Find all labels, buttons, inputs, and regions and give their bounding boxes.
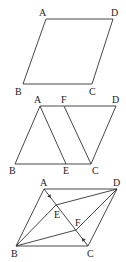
segment-BA	[16, 189, 44, 246]
point-label-c: C	[89, 86, 96, 97]
segment-FC	[64, 106, 91, 164]
point-label-f: F	[61, 94, 67, 105]
figure-3-parallelogram-with-diagonal: ADBCEF	[11, 177, 120, 259]
segment-FD	[76, 189, 117, 230]
arrow-icon	[82, 238, 86, 242]
segment-BA	[23, 19, 46, 84]
segment-DC	[88, 189, 117, 246]
segment-BE	[16, 205, 56, 246]
geometry-canvas: ADBC AFDBEC ADBCEF	[0, 0, 126, 262]
point-label-e: E	[63, 165, 69, 176]
point-label-a: A	[34, 94, 42, 105]
point-label-b: B	[9, 165, 16, 176]
segment-BF	[16, 230, 76, 246]
segment-DC	[91, 106, 116, 164]
point-label-c: C	[87, 248, 94, 259]
point-label-d: D	[113, 177, 120, 188]
segment-BA	[15, 106, 40, 164]
segment-ED	[56, 189, 117, 205]
figure-1-parallelogram: ADBC	[15, 7, 118, 97]
point-label-a: A	[39, 7, 47, 18]
segment-DC	[92, 19, 113, 84]
figure-2-parallelogram-with-segments: AFDBEC	[9, 94, 119, 176]
point-label-d: D	[111, 7, 118, 18]
point-label-e: E	[54, 209, 60, 220]
point-label-c: C	[92, 165, 99, 176]
segment-AE	[40, 106, 66, 164]
point-label-b: B	[11, 248, 18, 259]
point-label-f: F	[75, 217, 81, 228]
point-label-b: B	[15, 86, 22, 97]
point-label-a: A	[40, 177, 48, 188]
point-label-d: D	[112, 94, 119, 105]
